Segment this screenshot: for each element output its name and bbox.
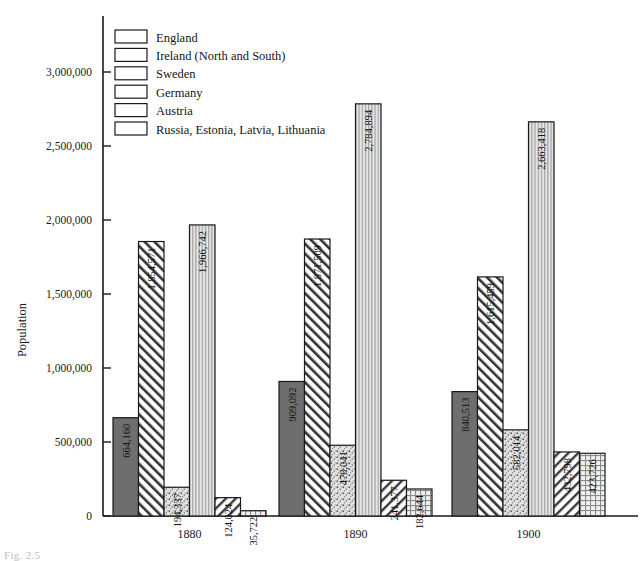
bar-value-label: 423,726: [587, 459, 598, 493]
legend-label-3: Sweden: [156, 67, 196, 81]
bar-value-label: 1,966,742: [197, 231, 208, 273]
y-tick-label: 3,000,000: [46, 66, 92, 79]
bar-value-label: 2,784,894: [363, 109, 374, 152]
bar-value-label: 840,513: [460, 398, 471, 432]
bar-value-label: 1,854,571: [146, 248, 157, 290]
y-tick-label: 0: [86, 510, 92, 522]
x-tick-label-1900: 1900: [517, 527, 541, 541]
y-tick-label: 1,000,000: [46, 362, 92, 375]
bar-germany-1890: [356, 104, 382, 516]
bar-value-label: 1,871,509: [312, 245, 323, 287]
legend-label-2: Ireland (North and South): [156, 49, 285, 63]
legend-label-4: Germany: [156, 86, 203, 100]
legend-label-6: Russia, Estonia, Latvia, Lithuania: [156, 123, 326, 137]
bar-value-label: 35,722: [248, 517, 259, 546]
bar-value-label: 194,337: [172, 493, 183, 527]
chart-legend: EnglandIreland (North and South)SwedenGe…: [115, 30, 326, 137]
legend-swatch-4: [115, 85, 147, 98]
bar-value-label: 241,377: [389, 486, 400, 520]
bar-value-label: 1,615,459: [485, 283, 496, 325]
legend-swatch-5: [115, 104, 147, 117]
bar-value-label: 432,798: [562, 458, 573, 492]
y-tick-label: 2,000,000: [46, 214, 92, 227]
x-tick-label-1890: 1890: [344, 527, 368, 541]
y-axis-ticks: 0500,0001,000,0001,500,0002,000,0002,500…: [46, 66, 111, 522]
population-bar-chart: 0500,0001,000,0001,500,0002,000,0002,500…: [0, 0, 642, 561]
bar-value-label: 124,024: [223, 503, 234, 538]
legend-swatch-6: [115, 122, 147, 135]
bar-value-label: 909,092: [287, 387, 298, 421]
bar-value-label: 2,663,418: [536, 128, 547, 170]
bar-value-label: 582,014: [511, 435, 522, 470]
x-tick-label-1880: 1880: [178, 527, 202, 541]
y-axis-title: Population: [15, 302, 29, 357]
y-tick-label: 500,000: [55, 436, 93, 449]
bar-russia-1880: [241, 511, 267, 516]
bar-germany-1900: [529, 122, 555, 516]
legend-swatch-3: [115, 67, 147, 80]
bar-value-label: 664,160: [121, 424, 132, 458]
legend-label-1: England: [156, 31, 198, 45]
figure-caption: Fig. 2.5: [4, 549, 40, 561]
legend-swatch-1: [115, 30, 147, 43]
y-tick-label: 2,500,000: [46, 140, 92, 153]
chart-canvas: 0500,0001,000,0001,500,0002,000,0002,500…: [0, 0, 642, 561]
bar-value-label: 182,644: [414, 494, 425, 529]
y-tick-label: 1,500,000: [46, 288, 92, 301]
bar-value-label: 478,041: [338, 451, 349, 485]
bars-layer: [113, 104, 605, 516]
legend-swatch-2: [115, 48, 147, 61]
legend-label-5: Austria: [156, 104, 193, 118]
